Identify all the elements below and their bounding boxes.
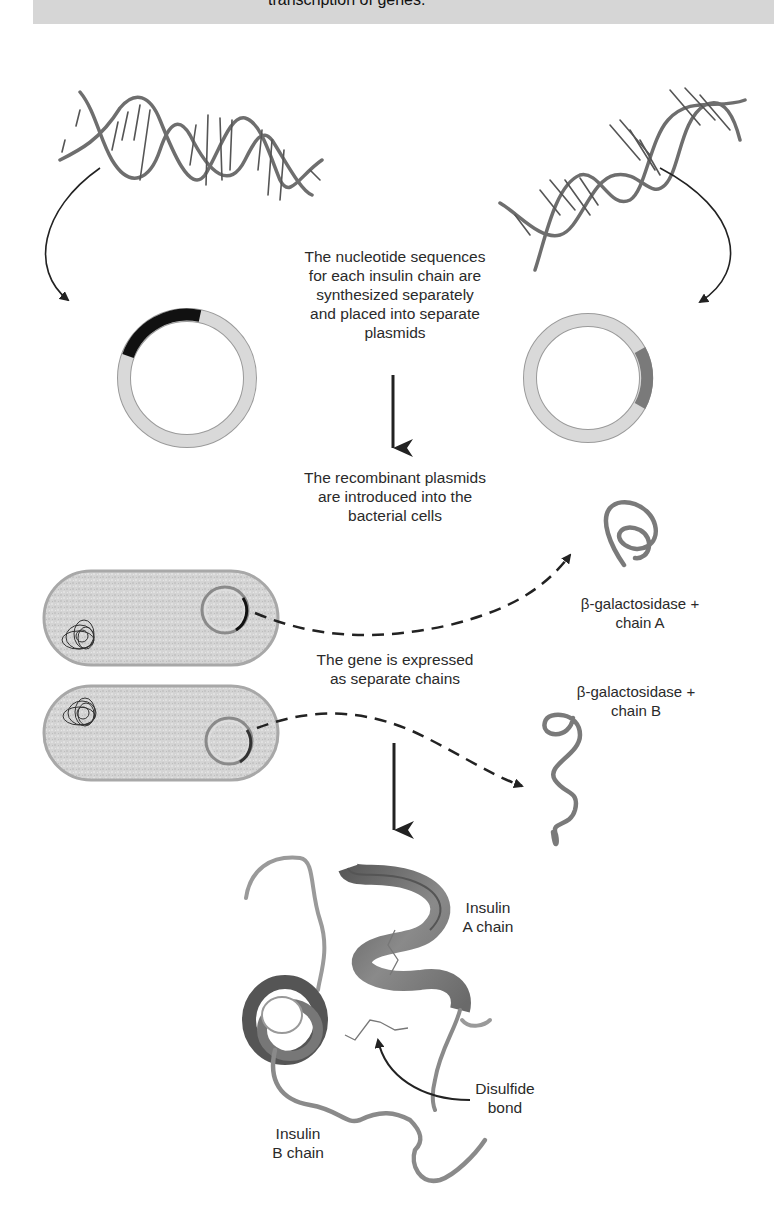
product-chain-a-label: β-galactosidase + chain A [560, 594, 720, 632]
a-chain-line-1: Insulin [448, 898, 528, 917]
expression-line-2: as separate chains [268, 669, 522, 688]
product-chain-b-label: β-galactosidase + chain B [556, 682, 716, 720]
synthesis-line-2: for each insulin chain are [268, 266, 522, 285]
b-chain-line-1: Insulin [258, 1124, 338, 1143]
introduction-line-2: are introduced into the [268, 487, 522, 506]
chain-a-line-2: chain A [560, 613, 720, 632]
step-synthesis-label: The nucleotide sequences for each insuli… [268, 247, 522, 342]
disulfide-line-1: Disulfide [460, 1079, 550, 1098]
plasmid-right-icon [530, 320, 647, 436]
step-expression-label: The gene is expressed as separate chains [268, 650, 522, 688]
synthesis-line-5: plasmids [268, 323, 522, 342]
protein-chain-a-icon [606, 502, 656, 565]
synthesis-line-4: and placed into separate [268, 304, 522, 323]
insulin-a-chain-label: Insulin A chain [448, 898, 528, 936]
expression-line-1: The gene is expressed [268, 650, 522, 669]
disulfide-line-2: bond [460, 1098, 550, 1117]
bacterial-cell-top-icon [44, 571, 278, 665]
introduction-line-3: bacterial cells [268, 506, 522, 525]
arrow-dna-to-plasmid-left-icon [46, 168, 100, 300]
arrow-dna-to-plasmid-right-icon [660, 168, 731, 302]
dna-helix-left-icon [60, 92, 322, 200]
dna-helix-right-icon [500, 88, 745, 270]
introduction-line-1: The recombinant plasmids [268, 468, 522, 487]
insulin-b-chain-label: Insulin B chain [258, 1124, 338, 1162]
synthesis-line-1: The nucleotide sequences [268, 247, 522, 266]
plasmid-left-icon [124, 315, 250, 441]
dashed-arrow-to-chain-b-icon [257, 714, 522, 786]
chain-b-line-2: chain B [556, 701, 716, 720]
synthesis-line-3: synthesized separately [268, 285, 522, 304]
chain-a-line-1: β-galactosidase + [560, 594, 720, 613]
disulfide-bond-label: Disulfide bond [460, 1079, 550, 1117]
step-introduction-label: The recombinant plasmids are introduced … [268, 468, 522, 525]
bacterial-cell-bottom-icon [44, 686, 278, 780]
a-chain-line-2: A chain [448, 917, 528, 936]
dashed-arrow-to-chain-a-icon [255, 555, 570, 635]
chain-b-line-1: β-galactosidase + [556, 682, 716, 701]
b-chain-line-2: B chain [258, 1143, 338, 1162]
protein-chain-b-icon [544, 715, 580, 844]
